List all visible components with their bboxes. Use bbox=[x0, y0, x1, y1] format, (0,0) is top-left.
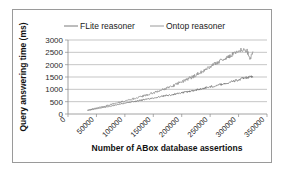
gridlines bbox=[68, 40, 267, 102]
series-group bbox=[88, 48, 253, 110]
chart-root: 0 500 1000 1500 2000 2500 3000 0 50000 1… bbox=[0, 0, 287, 180]
x-tick-label: 100000 bbox=[100, 115, 124, 139]
y-tickmarks bbox=[65, 40, 68, 114]
x-tick-label: 200000 bbox=[157, 115, 181, 139]
y-tick-labels: 0 500 1000 1500 2000 2500 3000 bbox=[45, 36, 63, 119]
y-tick-label: 2500 bbox=[45, 48, 63, 57]
x-tick-labels: 0 50000 100000 150000 200000 250000 3000… bbox=[58, 115, 266, 139]
x-tick-label: 300000 bbox=[214, 115, 238, 139]
x-tick-label: 150000 bbox=[129, 115, 153, 139]
y-tick-label: 500 bbox=[50, 98, 64, 107]
y-axis-title: Query answering time (ms) bbox=[18, 22, 28, 131]
x-tickmarks bbox=[68, 114, 267, 117]
y-tick-label: 1500 bbox=[45, 73, 63, 82]
y-tick-label: 3000 bbox=[45, 36, 63, 45]
series-line-ontop bbox=[88, 48, 253, 110]
legend: FLite reasoner Ontop reasoner bbox=[64, 21, 225, 31]
y-tick-label: 1000 bbox=[45, 85, 63, 94]
y-tick-label: 2000 bbox=[45, 61, 63, 70]
x-tick-label: 350000 bbox=[242, 115, 266, 139]
legend-label-flite: FLite reasoner bbox=[80, 21, 135, 31]
chart-canvas: 0 500 1000 1500 2000 2500 3000 0 50000 1… bbox=[0, 0, 287, 180]
x-tick-label: 250000 bbox=[185, 115, 209, 139]
x-tick-label: 50000 bbox=[75, 115, 96, 136]
legend-label-ontop: Ontop reasoner bbox=[166, 21, 225, 31]
x-axis-title: Number of ABox database assertions bbox=[92, 143, 243, 153]
series-line-flite bbox=[88, 76, 253, 111]
